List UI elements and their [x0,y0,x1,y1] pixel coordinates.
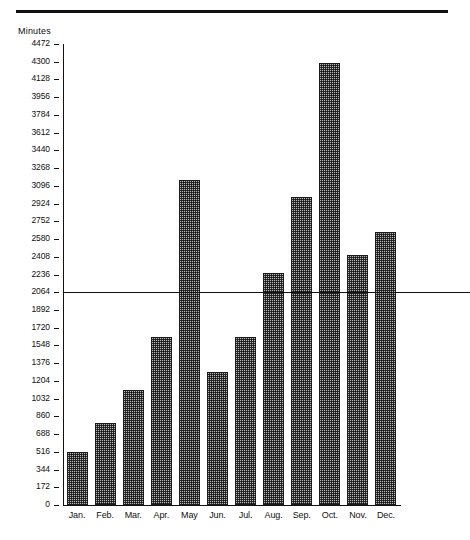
y-tick-mark [54,133,59,134]
y-tick-label: 1892 [31,304,50,314]
bar [95,423,116,505]
x-tick-label: May [175,510,203,520]
y-tick-mark [54,97,59,98]
y-tick-label: 2752 [31,215,50,225]
x-tick-label: Aug. [260,510,288,520]
y-tick-label: 2408 [31,251,50,261]
bar [207,372,228,505]
y-axis-unit-label: Minutes [18,26,51,36]
y-tick-label: 2580 [31,233,50,243]
x-tick-label: Nov. [344,510,372,520]
x-tick-label: Jun. [203,510,231,520]
x-tick-label: Feb. [91,510,119,520]
bar [235,337,256,505]
y-tick-mark [54,416,59,417]
y-tick-mark [54,204,59,205]
y-tick-mark [54,363,59,364]
bar [67,452,88,505]
bar [263,273,284,505]
average-line [63,292,470,293]
y-tick-mark [54,487,59,488]
y-tick-mark [54,452,59,453]
y-tick-label: 3268 [31,162,50,172]
x-tick-label: Jan. [63,510,91,520]
y-tick-mark [54,328,59,329]
y-tick-label: 2924 [31,198,50,208]
y-tick-mark [54,434,59,435]
y-tick-label: 3612 [31,127,50,137]
y-tick-mark [54,62,59,63]
y-tick-label: 4128 [31,73,50,83]
y-tick-mark [54,257,59,258]
bar [151,337,172,505]
y-tick-label: 4472 [31,38,50,48]
y-tick-mark [54,310,59,311]
y-tick-mark [54,168,59,169]
y-tick-label: 516 [36,446,50,456]
y-tick-mark [54,381,59,382]
y-tick-label: 1548 [31,339,50,349]
x-tick-label: Oct. [316,510,344,520]
chart-page: Minutes 01723445166888601032120413761548… [0,0,470,540]
y-tick-label: 1376 [31,357,50,367]
y-tick-label: 344 [36,464,50,474]
y-tick-label: 3956 [31,91,50,101]
y-tick-mark [54,221,59,222]
y-tick-label: 860 [36,410,50,420]
x-tick-label: Dec. [372,510,400,520]
y-tick-label: 3784 [31,109,50,119]
y-tick-mark [54,44,59,45]
y-tick-label: 1204 [31,375,50,385]
y-tick-mark [54,345,59,346]
y-tick-label: 3440 [31,144,50,154]
bar [319,63,340,505]
y-tick-mark [54,115,59,116]
y-tick-mark [54,505,59,506]
x-tick-label: Jul. [232,510,260,520]
bar [291,197,312,505]
y-tick-label: 1032 [31,393,50,403]
y-tick-mark [54,399,59,400]
y-tick-mark [54,275,59,276]
y-tick-mark [54,292,59,293]
top-divider-rule [16,10,448,13]
y-tick-mark [54,186,59,187]
y-tick-label: 4300 [31,56,50,66]
y-tick-label: 0 [45,499,50,509]
y-tick-mark [54,79,59,80]
x-tick-label: Apr. [147,510,175,520]
y-tick-label: 2064 [31,286,50,296]
y-tick-label: 688 [36,428,50,438]
plot-area [63,44,400,505]
y-tick-label: 172 [36,481,50,491]
y-tick-label: 1720 [31,322,50,332]
x-tick-label: Mar. [119,510,147,520]
y-tick-label: 3096 [31,180,50,190]
bar [179,180,200,505]
bar [375,232,396,505]
y-tick-mark [54,150,59,151]
y-tick-label: 2236 [31,269,50,279]
y-tick-mark [54,470,59,471]
x-axis-line [63,505,401,506]
x-tick-label: Sep. [288,510,316,520]
y-tick-mark [54,239,59,240]
bar [123,390,144,505]
